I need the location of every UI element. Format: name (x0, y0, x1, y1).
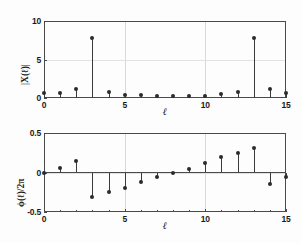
x-tick-mark-minor (221, 210, 222, 212)
gridline-horizontal (45, 60, 285, 61)
figure-canvas: 051015 0510 ℓ |X(ℓ)| 051015 -0.500.5 ℓ ϕ… (0, 0, 302, 243)
stem-marker (219, 92, 223, 96)
x-tick-mark-minor (189, 210, 190, 212)
x-tick-mark (205, 209, 206, 212)
stem-marker (171, 94, 175, 98)
stem-marker (107, 190, 111, 194)
y-tick-label: 0 (18, 93, 41, 103)
stem-marker (236, 151, 240, 155)
stem-marker (155, 175, 159, 179)
stem-marker (284, 175, 288, 179)
stem-marker (42, 171, 46, 175)
stem-marker (139, 93, 143, 97)
stem-marker (268, 182, 272, 186)
y-tick-mark (44, 133, 47, 134)
stem-marker (219, 155, 223, 159)
x-axis-title-phase: ℓ (163, 220, 167, 231)
stem-marker (155, 94, 159, 98)
stem-marker (236, 90, 240, 94)
x-tick-mark (125, 209, 126, 212)
magnitude-stem-plot: 051015 0510 ℓ |X(ℓ)| (0, 0, 302, 125)
stem-marker (284, 91, 288, 95)
x-tick-mark-minor (254, 210, 255, 212)
stem-marker (123, 93, 127, 97)
stem-marker (187, 167, 191, 171)
x-tick-label: 5 (122, 100, 127, 110)
x-tick-mark-minor (173, 210, 174, 212)
stem-marker (42, 91, 46, 95)
x-tick-mark-minor (141, 210, 142, 212)
y-tick-mark (44, 21, 47, 22)
x-tick-mark-minor (270, 210, 271, 212)
x-tick-label: 15 (281, 214, 290, 224)
y-axis-title-magnitude: |X(ℓ)| (20, 64, 30, 85)
x-tick-label: 0 (42, 214, 47, 224)
zero-baseline-phase (44, 172, 286, 173)
x-tick-mark-minor (157, 210, 158, 212)
y-tick-mark (44, 60, 47, 61)
x-tick-mark (286, 209, 287, 212)
stem-marker (203, 161, 207, 165)
stem-marker (203, 94, 207, 98)
stem-marker (107, 90, 111, 94)
stem-marker (252, 146, 256, 150)
y-tick-mark (44, 212, 47, 213)
x-tick-label: 10 (201, 100, 210, 110)
y-tick-label: 10 (18, 16, 41, 26)
x-tick-label: 15 (281, 100, 290, 110)
stem-marker (139, 180, 143, 184)
x-tick-label: 10 (201, 214, 210, 224)
stem-marker (90, 195, 94, 199)
y-axis-title-phase: ϕ(ℓ)/2π (16, 179, 26, 207)
stem-line (221, 157, 222, 172)
y-tick-label: 5 (18, 55, 41, 65)
x-tick-mark-minor (238, 210, 239, 212)
y-tick-label: 0 (18, 168, 41, 178)
y-tick-label: -0.5 (18, 207, 41, 217)
x-tick-label: 5 (122, 214, 127, 224)
stem-marker (58, 91, 62, 95)
x-tick-label: 0 (42, 100, 47, 110)
stem-line (254, 148, 255, 172)
x-tick-mark-minor (92, 210, 93, 212)
stem-marker (74, 87, 78, 91)
y-tick-label: 0.5 (18, 128, 41, 138)
stem-line (238, 153, 239, 173)
x-tick-mark-minor (109, 210, 110, 212)
stem-line (92, 38, 93, 98)
x-axis-title-magnitude: ℓ (163, 106, 167, 117)
stem-line (92, 173, 93, 197)
stem-marker (123, 186, 127, 190)
stem-marker (187, 94, 191, 98)
stem-marker (90, 36, 94, 40)
phase-stem-plot: 051015 -0.500.5 ℓ ϕ(ℓ)/2π (0, 125, 302, 243)
stem-marker (268, 87, 272, 91)
stem-marker (252, 36, 256, 40)
stem-marker (74, 159, 78, 163)
stem-marker (58, 166, 62, 170)
stem-marker (171, 171, 175, 175)
x-tick-mark-minor (76, 210, 77, 212)
y-tick-mark (44, 98, 47, 99)
stem-line (254, 38, 255, 98)
x-tick-mark-minor (60, 210, 61, 212)
